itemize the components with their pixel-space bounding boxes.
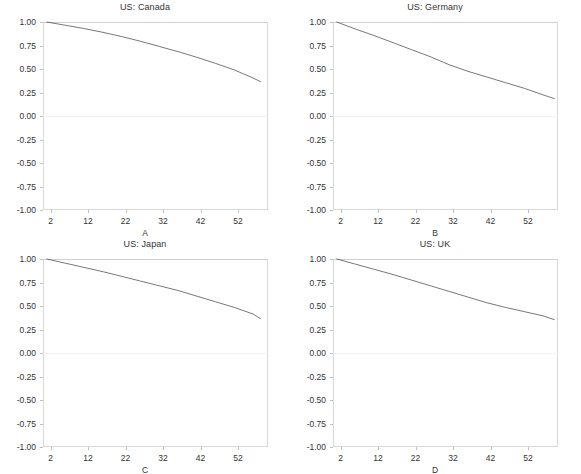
- x-tick-label: 42: [486, 453, 495, 463]
- series-layer: [333, 22, 558, 210]
- y-tick-label: -1.00: [0, 205, 36, 215]
- y-tick-mark: [330, 400, 333, 401]
- x-tick-label: 52: [523, 453, 532, 463]
- y-tick-label: 0.75: [290, 41, 326, 51]
- x-tick-label: 2: [48, 453, 53, 463]
- plot-area-us-uk: [333, 259, 558, 447]
- x-tick-label: 12: [373, 216, 382, 226]
- y-tick-label: 1.00: [0, 254, 36, 264]
- y-tick-label: -0.25: [0, 135, 36, 145]
- y-tick-mark: [40, 140, 43, 141]
- y-tick-label: -0.75: [290, 182, 326, 192]
- x-tick-mark: [238, 447, 239, 450]
- y-tick-label: -1.00: [290, 205, 326, 215]
- y-tick-mark: [330, 306, 333, 307]
- x-tick-label: 32: [158, 453, 167, 463]
- x-tick-label: 2: [338, 453, 343, 463]
- x-tick-mark: [163, 447, 164, 450]
- y-tick-label: 0.25: [290, 88, 326, 98]
- y-tick-label: 0.00: [290, 111, 326, 121]
- y-tick-mark: [40, 259, 43, 260]
- y-tick-mark: [40, 400, 43, 401]
- panel-title: US: UK: [290, 239, 580, 249]
- y-tick-mark: [40, 69, 43, 70]
- x-tick-mark: [416, 210, 417, 213]
- x-tick-label: 42: [486, 216, 495, 226]
- figure-canvas: US: Canada1.000.750.500.250.00-0.25-0.50…: [0, 0, 581, 474]
- x-tick-label: 32: [158, 216, 167, 226]
- y-tick-label: 0.50: [0, 64, 36, 74]
- y-tick-mark: [40, 330, 43, 331]
- x-tick-mark: [88, 210, 89, 213]
- x-tick-label: 42: [196, 453, 205, 463]
- x-tick-mark: [528, 210, 529, 213]
- chart-panel-us-germany: US: Germany1.000.750.500.250.00-0.25-0.5…: [290, 0, 580, 237]
- y-tick-mark: [40, 353, 43, 354]
- x-tick-mark: [528, 447, 529, 450]
- panel-title: US: Canada: [0, 2, 290, 12]
- y-tick-label: 0.50: [0, 301, 36, 311]
- x-tick-label: 12: [373, 453, 382, 463]
- x-tick-mark: [378, 447, 379, 450]
- x-axis-title: C: [0, 465, 290, 474]
- x-tick-label: 32: [448, 216, 457, 226]
- y-tick-label: -0.50: [290, 158, 326, 168]
- y-tick-mark: [40, 187, 43, 188]
- x-tick-mark: [201, 210, 202, 213]
- x-axis-title: D: [290, 465, 580, 474]
- y-tick-mark: [40, 163, 43, 164]
- y-tick-label: -1.00: [290, 442, 326, 452]
- x-tick-mark: [341, 210, 342, 213]
- y-tick-label: 0.75: [290, 278, 326, 288]
- x-tick-label: 42: [196, 216, 205, 226]
- x-tick-label: 12: [83, 453, 92, 463]
- y-tick-mark: [330, 22, 333, 23]
- y-tick-mark: [40, 116, 43, 117]
- y-tick-label: -0.25: [290, 135, 326, 145]
- x-tick-label: 32: [448, 453, 457, 463]
- x-tick-label: 22: [121, 216, 130, 226]
- y-tick-label: 0.25: [290, 325, 326, 335]
- y-tick-mark: [330, 283, 333, 284]
- y-tick-mark: [40, 377, 43, 378]
- y-tick-mark: [330, 424, 333, 425]
- y-tick-mark: [330, 353, 333, 354]
- y-tick-label: -0.25: [290, 372, 326, 382]
- y-tick-label: 1.00: [290, 17, 326, 27]
- y-tick-label: -0.50: [290, 395, 326, 405]
- x-tick-label: 22: [411, 453, 420, 463]
- chart-panel-us-canada: US: Canada1.000.750.500.250.00-0.25-0.50…: [0, 0, 290, 237]
- x-tick-mark: [51, 210, 52, 213]
- y-tick-label: 0.50: [290, 64, 326, 74]
- y-tick-label: 0.25: [0, 88, 36, 98]
- y-tick-mark: [40, 306, 43, 307]
- y-tick-label: 1.00: [290, 254, 326, 264]
- y-tick-mark: [330, 93, 333, 94]
- y-tick-mark: [40, 46, 43, 47]
- y-tick-label: 1.00: [0, 17, 36, 27]
- y-tick-mark: [40, 22, 43, 23]
- series-line-us-uk: [337, 259, 555, 320]
- y-tick-mark: [40, 210, 43, 211]
- y-tick-label: 0.75: [0, 41, 36, 51]
- x-tick-label: 22: [411, 216, 420, 226]
- panel-title: US: Japan: [0, 239, 290, 249]
- x-tick-label: 52: [233, 453, 242, 463]
- y-tick-label: -0.25: [0, 372, 36, 382]
- y-tick-mark: [330, 187, 333, 188]
- x-tick-mark: [491, 447, 492, 450]
- series-line-us-japan: [47, 259, 261, 319]
- y-tick-mark: [40, 424, 43, 425]
- panel-title: US: Germany: [290, 2, 580, 12]
- series-layer: [43, 22, 268, 210]
- y-tick-mark: [40, 447, 43, 448]
- x-tick-label: 22: [121, 453, 130, 463]
- y-tick-label: 0.00: [0, 348, 36, 358]
- y-tick-mark: [330, 330, 333, 331]
- x-tick-mark: [453, 447, 454, 450]
- y-tick-mark: [330, 140, 333, 141]
- x-tick-label: 12: [83, 216, 92, 226]
- x-tick-mark: [126, 447, 127, 450]
- y-tick-label: -0.50: [0, 395, 36, 405]
- y-tick-mark: [330, 163, 333, 164]
